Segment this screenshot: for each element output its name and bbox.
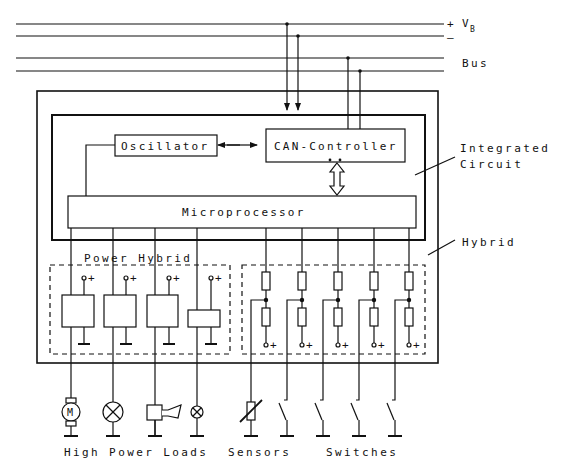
switch-icon-1 — [279, 403, 294, 436]
sensors-label: Sensors — [228, 446, 291, 459]
high-power-loads-label: High Power Loads — [64, 446, 208, 459]
input-divider-3 — [320, 228, 342, 400]
terminal-plus: + — [378, 339, 385, 352]
microprocessor-label: Microprocessor — [182, 206, 306, 219]
small-lamp-icon — [190, 406, 204, 436]
input-divider-4 — [356, 228, 378, 400]
oscillator-label: Oscillator — [121, 140, 209, 153]
terminal-plus: + — [342, 339, 349, 352]
integrated-circuit-box — [52, 115, 425, 240]
sensor-icon — [240, 400, 262, 436]
switch-icon-4 — [387, 403, 402, 436]
terminal-plus: + — [130, 272, 137, 285]
lamp-icon — [103, 402, 123, 436]
terminal-plus: + — [173, 272, 180, 285]
terminal-plus: + — [306, 339, 313, 352]
horn-icon — [147, 405, 181, 436]
terminal-plus: + — [88, 272, 95, 285]
input-divider-2 — [284, 228, 306, 400]
motor-symbol: M — [67, 407, 73, 418]
terminal-plus: + — [215, 272, 222, 285]
can-up-data-arrow — [330, 163, 344, 195]
input-divider-1 — [251, 228, 270, 402]
hybrid-label: Hybrid — [462, 236, 516, 249]
switch-icon-2 — [315, 403, 330, 436]
ic-label-line2: Circuit — [460, 158, 523, 171]
supply-minus-label: – — [447, 31, 454, 44]
can-controller-label: CAN-Controller — [274, 140, 398, 153]
terminal-plus: + — [413, 339, 420, 352]
supply-plus-label: + — [447, 18, 454, 31]
ic-leader — [415, 157, 455, 175]
switches-label: Switches — [326, 446, 398, 459]
osc-clock-line — [86, 145, 115, 196]
hybrid-leader — [428, 240, 455, 255]
bus-label: Bus — [462, 57, 489, 70]
input-divider-5 — [392, 228, 413, 400]
terminal-plus: + — [270, 339, 277, 352]
supply-subscript: B — [470, 25, 475, 34]
can-node-diagram: + – V B Bus Oscillator CAN-Controller Mi… — [0, 0, 568, 476]
power-driver-4 — [188, 228, 220, 406]
switch-icon-3 — [351, 403, 366, 436]
power-hybrid-label: Power Hybrid — [84, 252, 192, 265]
ic-label-line1: Integrated — [460, 142, 550, 155]
